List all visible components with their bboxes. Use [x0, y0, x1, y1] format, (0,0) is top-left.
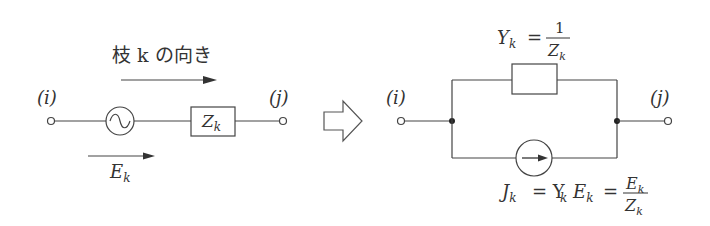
svg-text:=: =	[527, 27, 542, 48]
terminal-j	[665, 118, 672, 125]
svg-text:1: 1	[555, 19, 565, 37]
admittance-box	[512, 64, 557, 94]
node-j-label: (j)	[269, 87, 289, 108]
left-circuit: 枝 k の向き (i) (j) Zk Ek	[37, 44, 289, 185]
svg-text:Jk: Jk	[498, 181, 517, 205]
branch-direction-arrow	[121, 76, 217, 84]
emf-label: Ek	[109, 161, 130, 185]
svg-text:Zk: Zk	[547, 41, 566, 63]
current-formula: Jk = Y k Ek = Ek Zk	[498, 174, 648, 218]
node-i-label: (i)	[386, 87, 406, 108]
svg-text:=: =	[603, 181, 618, 202]
svg-text:Yk: Yk	[497, 27, 516, 51]
equivalence-arrow-icon	[324, 101, 362, 141]
terminal-i	[48, 118, 55, 125]
svg-text:k: k	[560, 191, 567, 205]
svg-text:Ek: Ek	[572, 181, 593, 205]
terminal-j	[280, 118, 287, 125]
right-circuit: Yk = 1 Zk (i) (j) Jk = Y k Ek	[386, 19, 672, 218]
node-j-label: (j)	[650, 87, 670, 108]
branch-direction-label: 枝 k の向き	[112, 44, 212, 66]
ac-source-icon	[106, 107, 134, 135]
svg-text:Zk: Zk	[624, 196, 643, 218]
circuit-diagram: 枝 k の向き (i) (j) Zk Ek Yk = 1	[0, 0, 710, 226]
terminal-i	[398, 118, 405, 125]
current-source-icon	[516, 140, 552, 176]
admittance-formula: Yk = 1 Zk	[497, 19, 570, 63]
emf-arrow	[88, 153, 155, 160]
node-i-label: (i)	[37, 87, 57, 108]
